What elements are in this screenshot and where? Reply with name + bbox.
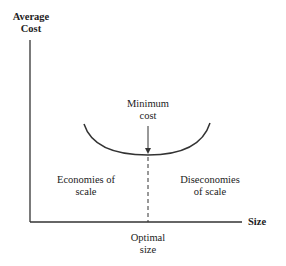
optimal-size-label: Optimal size xyxy=(118,232,178,256)
diagram-canvas xyxy=(0,0,286,266)
x-axis-label: Size xyxy=(248,216,266,228)
minimum-cost-label: Minimum cost xyxy=(118,98,178,122)
diseconomies-label: Diseconomies of scale xyxy=(170,174,250,198)
arrow-head-icon xyxy=(145,148,151,154)
economies-label: Economies of scale xyxy=(46,174,126,198)
y-axis-label: Average Cost xyxy=(6,11,56,35)
